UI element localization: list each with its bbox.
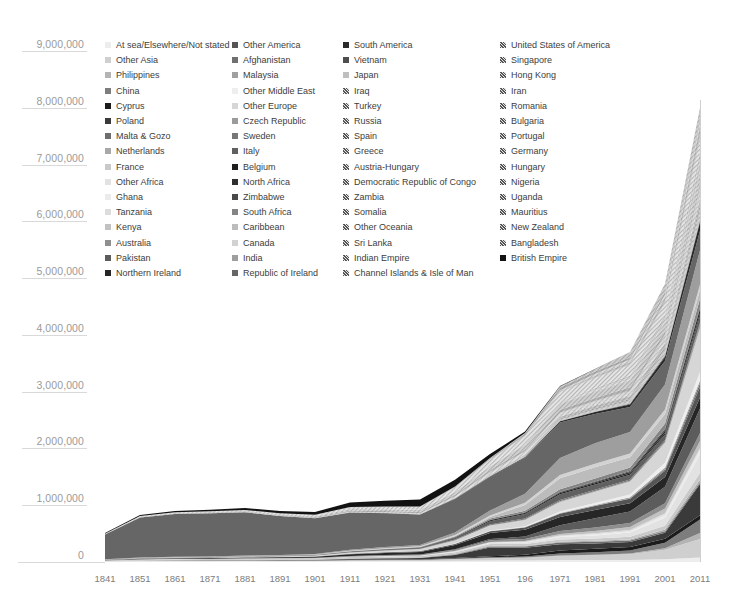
legend-item[interactable]: Romania — [500, 101, 547, 111]
legend-item[interactable]: Malaysia — [232, 70, 279, 80]
legend-item[interactable]: Democratic Republic of Congo — [343, 177, 476, 187]
legend-item[interactable]: Australia — [105, 238, 151, 248]
legend-item[interactable]: Austria-Hungary — [343, 162, 419, 172]
legend-swatch-icon — [343, 118, 349, 124]
legend-item[interactable]: Italy — [232, 146, 260, 156]
legend-item[interactable]: South Africa — [232, 207, 292, 217]
legend-item-label: Bulgaria — [511, 116, 544, 126]
legend-item[interactable]: Ghana — [105, 192, 143, 202]
legend-item-label: Somalia — [354, 207, 387, 217]
legend-item[interactable]: Mauritius — [500, 207, 548, 217]
legend-item-label: Spain — [354, 131, 377, 141]
legend-item[interactable]: Germany — [500, 146, 548, 156]
legend-item[interactable]: Netherlands — [105, 146, 165, 156]
legend-item-label: Nigeria — [511, 177, 540, 187]
legend-item-label: Republic of Ireland — [243, 268, 318, 278]
legend-swatch-icon — [105, 57, 111, 63]
legend-item[interactable]: Turkey — [343, 101, 381, 111]
legend-item[interactable]: Iran — [500, 86, 527, 96]
legend-item-label: Portugal — [511, 131, 545, 141]
legend-item[interactable]: Other Asia — [105, 55, 158, 65]
legend-swatch-icon — [343, 270, 349, 276]
legend-item[interactable]: Other Europe — [232, 101, 297, 111]
legend-item[interactable]: Northern Ireland — [105, 268, 181, 278]
legend-item[interactable]: Tanzania — [105, 207, 152, 217]
legend-swatch-icon — [500, 118, 506, 124]
legend-item[interactable]: British Empire — [500, 253, 567, 263]
legend-item[interactable]: Czech Republic — [232, 116, 306, 126]
legend-item[interactable]: Singapore — [500, 55, 552, 65]
legend-item[interactable]: Hungary — [500, 162, 545, 172]
legend-item[interactable]: Greece — [343, 146, 384, 156]
legend-item[interactable]: Bulgaria — [500, 116, 544, 126]
legend-item[interactable]: Bangladesh — [500, 238, 559, 248]
legend-item-label: Sweden — [243, 131, 276, 141]
legend-item-label: Channel Islands & Isle of Man — [354, 268, 474, 278]
legend-item[interactable]: Spain — [343, 131, 377, 141]
legend-item[interactable]: Caribbean — [232, 222, 285, 232]
legend-item[interactable]: Kenya — [105, 222, 142, 232]
legend-item-label: Romania — [511, 101, 547, 111]
legend-item-label: Canada — [243, 238, 275, 248]
legend-item[interactable]: South America — [343, 40, 413, 50]
legend-item[interactable]: Other Middle East — [232, 86, 315, 96]
x-axis-tick-label: 1971 — [540, 573, 580, 584]
legend-item[interactable]: United States of America — [500, 40, 610, 50]
legend-item[interactable]: Afghanistan — [232, 55, 291, 65]
legend-item[interactable]: Vietnam — [343, 55, 387, 65]
legend-item-label: New Zealand — [511, 222, 564, 232]
legend-item-label: Czech Republic — [243, 116, 306, 126]
legend-item[interactable]: Hong Kong — [500, 70, 556, 80]
legend-item[interactable]: Canada — [232, 238, 275, 248]
legend-item-label: Indian Empire — [354, 253, 410, 263]
x-axis-tick-label: 1891 — [260, 573, 300, 584]
legend-item[interactable]: Uganda — [500, 192, 543, 202]
legend-item[interactable]: Sweden — [232, 131, 276, 141]
legend-item[interactable]: India — [232, 253, 263, 263]
x-axis-tick-label: 1901 — [295, 573, 335, 584]
legend-item[interactable]: Pakistan — [105, 253, 151, 263]
legend-item[interactable]: Iraq — [343, 86, 370, 96]
legend-item[interactable]: Poland — [105, 116, 144, 126]
legend-swatch-icon — [500, 72, 506, 78]
legend-item[interactable]: Zimbabwe — [232, 192, 285, 202]
legend-item[interactable]: Portugal — [500, 131, 545, 141]
legend-item-label: Democratic Republic of Congo — [354, 177, 476, 187]
legend-swatch-icon — [343, 148, 349, 154]
legend-item[interactable]: Indian Empire — [343, 253, 410, 263]
legend-item-label: Other Oceania — [354, 222, 413, 232]
legend-item-label: Ghana — [116, 192, 143, 202]
legend-item[interactable]: Belgium — [232, 162, 276, 172]
legend-item[interactable]: Zambia — [343, 192, 384, 202]
legend-item[interactable]: Republic of Ireland — [232, 268, 318, 278]
x-axis-tick-label: 1951 — [470, 573, 510, 584]
legend-swatch-icon — [343, 57, 349, 63]
legend-item[interactable]: France — [105, 162, 144, 172]
legend-swatch-icon — [105, 42, 111, 48]
legend-item[interactable]: At sea/Elsewhere/Not stated — [105, 40, 230, 50]
legend-item[interactable]: China — [105, 86, 140, 96]
legend-item[interactable]: Japan — [343, 70, 379, 80]
legend-item[interactable]: Cyprus — [105, 101, 145, 111]
legend-item-label: Uganda — [511, 192, 543, 202]
legend-item[interactable]: Somalia — [343, 207, 387, 217]
legend-item-label: Vietnam — [354, 55, 387, 65]
legend-item[interactable]: Channel Islands & Isle of Man — [343, 268, 474, 278]
legend-item[interactable]: Sri Lanka — [343, 238, 392, 248]
legend-item[interactable]: Russia — [343, 116, 382, 126]
chart-page: 9,000,0008,000,0007,000,0006,000,0005,00… — [0, 0, 729, 602]
legend-item[interactable]: Malta & Gozo — [105, 131, 171, 141]
legend-item[interactable]: Other Africa — [105, 177, 164, 187]
legend-item[interactable]: New Zealand — [500, 222, 564, 232]
legend-item[interactable]: Other Oceania — [343, 222, 413, 232]
legend-item[interactable]: Other America — [232, 40, 301, 50]
legend-item[interactable]: Philippines — [105, 70, 160, 80]
legend-item[interactable]: North Africa — [232, 177, 290, 187]
x-axis-tick-label: 2011 — [680, 573, 720, 584]
legend-item-label: Other Middle East — [243, 86, 315, 96]
legend-swatch-icon — [105, 240, 111, 246]
legend-item[interactable]: Nigeria — [500, 177, 540, 187]
legend-item-label: Turkey — [354, 101, 381, 111]
legend-swatch-icon — [343, 255, 349, 261]
legend-swatch-icon — [105, 72, 111, 78]
